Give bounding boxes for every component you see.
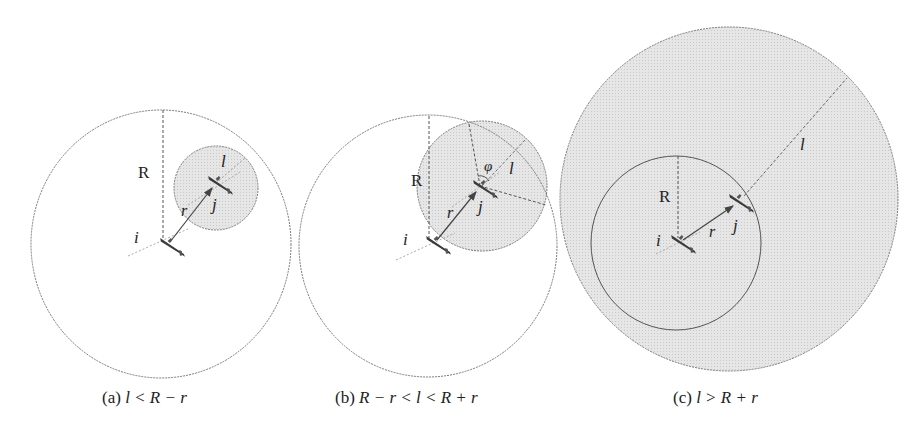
- panel-a: R r l i j: [31, 110, 291, 378]
- panel-c-label-R: R: [659, 187, 671, 206]
- caption-a: (a) l < R − r: [102, 388, 187, 408]
- circle-geometry-figure: R r l i j R φ l r i j: [0, 0, 921, 436]
- caption-b: (b) R − r < l < R + r: [335, 388, 478, 408]
- panel-b-label-phi: φ: [484, 158, 492, 174]
- panel-c: R l r i j: [560, 27, 898, 371]
- caption-b-prefix: (b): [335, 388, 355, 407]
- caption-c: (c) l > R + r: [673, 388, 758, 408]
- caption-c-prefix: (c): [673, 388, 692, 407]
- panel-c-big-circle: [560, 27, 898, 371]
- caption-b-condition: R − r < l < R + r: [359, 388, 478, 407]
- panel-c-label-r: r: [709, 223, 716, 240]
- panel-b-label-R: R: [411, 171, 423, 190]
- panel-a-label-R: R: [138, 163, 150, 182]
- panel-c-label-j: j: [731, 216, 738, 235]
- panel-b-label-r: r: [447, 204, 454, 221]
- caption-a-condition: l < R − r: [125, 388, 187, 407]
- panel-a-label-l: l: [221, 152, 226, 171]
- caption-a-prefix: (a): [102, 388, 121, 407]
- caption-c-condition: l > R + r: [696, 388, 758, 407]
- panel-c-label-i: i: [656, 231, 661, 250]
- panel-b: R φ l r i j: [299, 115, 557, 377]
- panel-b-label-j: j: [476, 197, 483, 216]
- panel-a-label-j: j: [210, 195, 217, 214]
- panel-a-big-circle: [31, 110, 291, 378]
- panel-a-label-r: r: [181, 202, 188, 219]
- panel-b-label-i: i: [403, 230, 408, 249]
- panel-c-label-l: l: [800, 135, 805, 154]
- panel-b-label-l: l: [509, 159, 514, 178]
- panel-a-label-i: i: [134, 228, 139, 247]
